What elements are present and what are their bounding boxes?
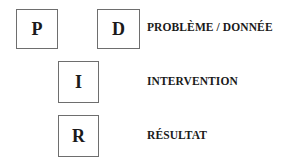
box-i: I [58, 61, 99, 103]
box-i-letter: I [75, 72, 82, 93]
box-p-letter: P [32, 19, 43, 40]
box-r-letter: R [72, 126, 85, 147]
box-d-letter: D [112, 19, 125, 40]
label-problem: PROBLÈME / DONNÉE [147, 21, 273, 33]
label-result: RÉSULTAT [147, 129, 207, 141]
label-intervention: INTERVENTION [147, 75, 238, 87]
box-r: R [58, 115, 99, 157]
box-d: D [97, 9, 140, 49]
box-p: P [16, 9, 58, 49]
